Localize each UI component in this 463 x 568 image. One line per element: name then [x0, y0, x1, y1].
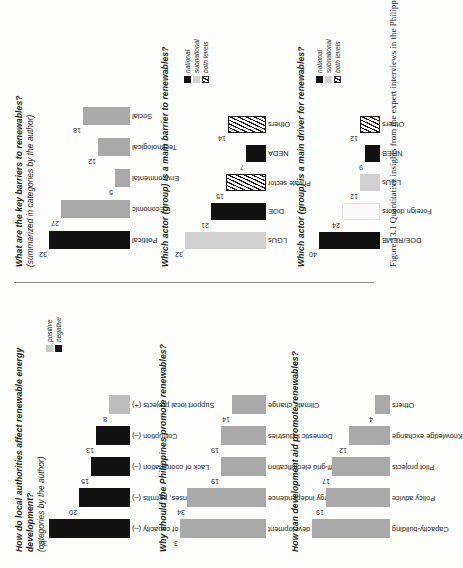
legend-swatch-icon — [202, 76, 209, 83]
bar-group: 14 Others — [180, 116, 266, 133]
chart-development-aid: Capacity-building 19 Policy advice 17 Pi… — [308, 368, 390, 538]
bar-value: 12 — [350, 135, 358, 142]
bar-value: 9 — [359, 164, 363, 171]
bar-value: 14 — [218, 135, 226, 142]
bar-category-label: Knowledge exchange — [392, 432, 463, 441]
bar-category-label: Corruption (–) — [132, 432, 178, 441]
legend-label: both levels — [334, 41, 341, 73]
bar-category-label: Others — [268, 120, 290, 129]
bar-value: 14 — [222, 416, 230, 423]
bar-value: 34 — [177, 509, 185, 516]
bar-value: 15 — [216, 193, 224, 200]
bar-value: 32 — [175, 251, 183, 258]
bar — [349, 426, 390, 445]
bar-group: 32 LGUs — [180, 232, 266, 249]
legend-item-both-levels: both levels — [334, 39, 341, 83]
bar-category-label: Pilot projects — [392, 463, 434, 472]
bar-group: 15 Lack of coordination (–) — [44, 457, 130, 476]
bar-value: 20 — [69, 509, 77, 516]
page-half-lower: What are the key barriers to renewables?… — [0, 0, 408, 283]
figure-caption: Figure 13.1 Quantitative insights from t… — [388, 0, 398, 267]
legend-label: national — [316, 50, 323, 73]
bar-group: 4 Others — [308, 395, 390, 414]
legend-swatch-icon — [316, 76, 323, 83]
bar-group: 9 NREB — [314, 145, 380, 162]
bar — [91, 457, 130, 476]
panel-3-title: How can development aid promote renewabl… — [290, 290, 301, 552]
bar — [312, 519, 390, 538]
bar-value: 7 — [240, 164, 244, 171]
bar-category-label: Others — [392, 401, 414, 410]
panel-1-title: How do local authorities affect renewabl… — [14, 290, 36, 552]
bar — [49, 519, 130, 538]
bar — [246, 145, 266, 162]
bar-group: 19 Off-grid electrification — [176, 457, 266, 476]
bar — [83, 107, 130, 125]
bar — [49, 231, 130, 249]
bar — [226, 174, 266, 191]
page-half-upper: How do local authorities affect renewabl… — [0, 283, 408, 568]
chart-main-driver-actor: 40 DOE/REMB 24 Foreign donors 12 LGUs — [314, 99, 380, 249]
bar — [360, 174, 380, 191]
bar-value: 15 — [81, 478, 89, 485]
bar — [211, 203, 266, 220]
chart-key-barriers: 32 Political 27 Economic 5 Environmental — [44, 89, 130, 249]
bar-value: 40 — [309, 251, 317, 258]
bar-value: 12 — [88, 158, 96, 165]
bar — [360, 116, 380, 133]
bar — [365, 145, 380, 162]
panel-5-title: Which actor (group) is a main barrier to… — [160, 12, 171, 267]
bar — [98, 138, 130, 156]
bar — [96, 426, 130, 445]
bar-value: 24 — [332, 222, 340, 229]
legend-label: both levels — [202, 41, 209, 73]
legend-item-subnational: subnational — [193, 39, 200, 83]
panel-local-authorities: How do local authorities affect renewabl… — [14, 290, 47, 552]
bar-group: 7 NEDA — [180, 145, 266, 162]
bar — [342, 203, 380, 220]
bar-category-label: Environmental — [132, 174, 179, 183]
bar — [61, 200, 130, 218]
bar-category-label: Political — [132, 236, 157, 245]
bar — [221, 457, 266, 476]
bar-group: Capacity-building — [308, 519, 390, 538]
bar-value: 19 — [211, 447, 219, 454]
bar-group: 18 Social — [44, 107, 130, 125]
bar-value: 13 — [86, 447, 94, 454]
panel-2-title: Why should the Philippines promote renew… — [158, 290, 169, 552]
bar-value: 5 — [109, 189, 113, 196]
bar-category-label: Policy advice — [392, 494, 435, 503]
bar-value: 27 — [51, 220, 59, 227]
legend-swatch-icon — [334, 76, 341, 83]
legend-label: negative — [55, 317, 62, 342]
bar-value: 32 — [39, 251, 47, 258]
bar — [375, 395, 390, 414]
bar-group: 12 LGUs — [314, 174, 380, 191]
bar-value: 21 — [201, 222, 209, 229]
legend-item-positive: positive — [46, 317, 53, 352]
bar-group: 40 DOE/REMB — [314, 232, 380, 249]
panel-development-aid: How can development aid promote renewabl… — [290, 290, 301, 552]
legend-polarity: positive negative — [46, 317, 64, 352]
legend-swatch-icon — [46, 345, 53, 352]
bar-group: 5 Environmental — [44, 169, 130, 187]
panel-4-title: What are the key barriers to renewables? — [14, 17, 25, 267]
chart-why-promote: 3 Economic development 34 Energy indepen… — [176, 368, 266, 538]
bar — [228, 116, 266, 133]
bar — [319, 232, 380, 249]
bar-group: 19 Domestic industries — [176, 426, 266, 445]
panel-main-driver-actor: Which actor (group) is a main driver for… — [296, 12, 307, 267]
bar-group: 19 Policy advice — [308, 488, 390, 507]
legend-label: national — [184, 50, 191, 73]
panel-6-title: Which actor (group) is a main driver for… — [296, 12, 307, 267]
legend-swatch-icon — [193, 76, 200, 83]
bar — [79, 488, 130, 507]
chart-main-barrier-actor: 32 LGUs 21 DOE 15 Private sector — [180, 99, 266, 249]
bar — [180, 519, 266, 538]
bar-category-label: DOE — [268, 207, 284, 216]
legend-swatch-icon — [55, 345, 62, 352]
chart-local-authorities: 32 Lack of capacity (–) 20 Delays: licen… — [44, 368, 130, 538]
legend-label: subnational — [325, 39, 332, 73]
bar-group: 3 Economic development — [176, 519, 266, 538]
